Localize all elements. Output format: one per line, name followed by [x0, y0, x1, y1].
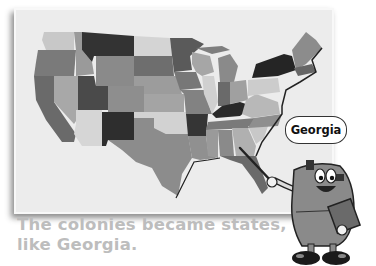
backpack-mascot	[236, 130, 376, 266]
speech-bubble: Georgia	[285, 116, 347, 144]
speech-bubble-text: Georgia	[291, 123, 342, 137]
